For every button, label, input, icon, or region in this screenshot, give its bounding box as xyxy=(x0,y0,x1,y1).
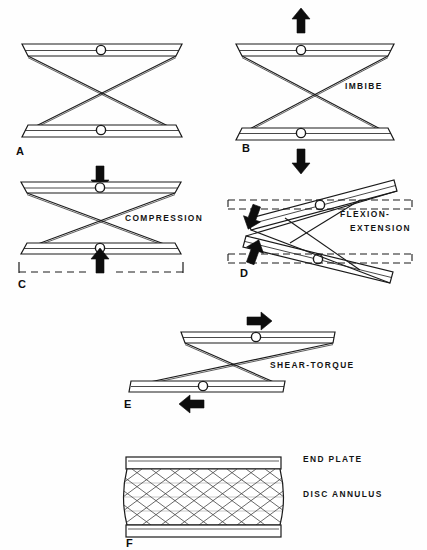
panel-b: IMBIBE B xyxy=(236,8,394,174)
panel-letter-b: B xyxy=(242,142,250,154)
panel-b-arrow-up xyxy=(292,8,310,33)
panel-e-arrow-left xyxy=(179,395,204,413)
panel-letter-d: D xyxy=(240,267,248,279)
panel-f-lower-end-plate xyxy=(126,525,281,537)
panel-b-lower-pivot xyxy=(296,128,305,137)
panel-a-lower-pivot xyxy=(96,125,105,134)
panel-c: COMPRESSION C xyxy=(18,166,203,290)
panel-letter-f: F xyxy=(126,537,133,549)
panel-a-lower-plate xyxy=(22,125,182,137)
panel-a-fibers xyxy=(28,56,176,132)
panel-b-upper-pivot xyxy=(296,45,305,54)
panel-c-upper-pivot xyxy=(95,183,104,192)
panel-b-arrow-down xyxy=(292,149,310,174)
label-extension: EXTENSION xyxy=(350,223,411,233)
panel-b-lower-plate xyxy=(236,128,394,140)
panel-b-fibers xyxy=(242,56,388,135)
panel-e: SHEAR-TORQUE E xyxy=(124,312,355,413)
label-shear-torque: SHEAR-TORQUE xyxy=(270,360,355,370)
panel-e-upper-plate xyxy=(181,332,335,343)
panel-letter-c: C xyxy=(18,278,26,290)
panel-f-upper-end-plate xyxy=(126,457,281,469)
label-imbibe: IMBIBE xyxy=(345,81,383,91)
disc-mechanics-figure: A IMBIBE B xyxy=(0,0,427,550)
panel-d-upper-pivot xyxy=(315,200,324,209)
panel-f-annulus xyxy=(66,469,341,525)
label-compression: COMPRESSION xyxy=(125,213,203,223)
panel-a-upper-plate xyxy=(22,44,182,56)
panel-c-upper-plate xyxy=(21,182,181,193)
panel-a-upper-pivot xyxy=(96,45,105,54)
panel-e-upper-pivot xyxy=(251,332,260,341)
label-flexion: FLEXION- xyxy=(340,209,390,219)
panel-a: A xyxy=(16,44,182,157)
panel-e-lower-plate xyxy=(129,381,285,392)
panel-letter-e: E xyxy=(124,398,132,410)
panel-d: FLEXION- EXTENSION D xyxy=(228,180,412,283)
panel-b-upper-plate xyxy=(236,44,394,56)
panel-e-lower-pivot xyxy=(198,381,207,390)
label-end-plate: END PLATE xyxy=(303,454,362,464)
panel-f: END PLATE DISC ANNULUS F xyxy=(66,454,383,549)
panel-letter-a: A xyxy=(16,145,24,157)
panel-e-arrow-right xyxy=(247,312,272,330)
label-disc-annulus: DISC ANNULUS xyxy=(303,489,383,499)
